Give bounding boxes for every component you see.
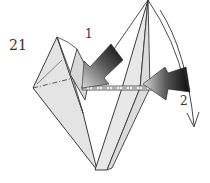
arrow-label-1: 1 [85, 27, 93, 41]
arrow-label-2: 2 [180, 94, 188, 108]
origami-diagram [0, 0, 210, 183]
push-arrow-1 [82, 44, 123, 88]
left-flap [33, 37, 97, 170]
fold-diagram-svg [0, 0, 210, 183]
step-number: 21 [9, 37, 27, 53]
